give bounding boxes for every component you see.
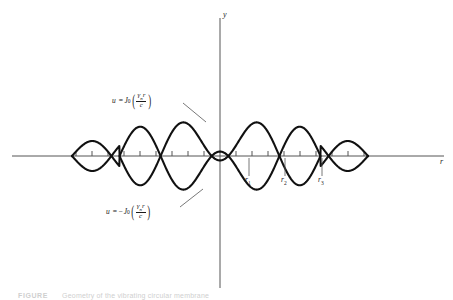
formula-negative-lhs: u: [106, 208, 110, 216]
formula-positive-subscript: 0: [128, 99, 131, 105]
formula-negative-sign: −: [118, 208, 122, 216]
figure-container: y r u = J 0 ( γnr c ) u = − J 0 ( γnr c …: [0, 0, 453, 300]
figure-caption: FIGUREGeometry of the vibrating circular…: [18, 292, 209, 299]
formula-positive-paren-close: ): [148, 93, 151, 108]
formula-negative-paren-close: ): [147, 204, 150, 219]
formula-positive-numerator: γnr: [136, 92, 146, 101]
formula-positive-paren-open: (: [132, 93, 135, 108]
node-label-r3: r3: [318, 175, 324, 186]
node-label-r1: r1: [245, 175, 251, 186]
axes-group: [12, 18, 444, 288]
formula-negative-denominator: c: [138, 212, 143, 219]
formula-positive-fraction: γnr c: [136, 92, 146, 109]
gamma-subscript: n: [139, 207, 142, 212]
gamma-subscript: n: [140, 96, 143, 101]
caption-tag: FIGURE: [18, 292, 48, 299]
formula-negative-paren-open: (: [131, 204, 134, 219]
formula-negative-numerator: γnr: [136, 203, 146, 212]
caption-text: Geometry of the vibrating circular membr…: [62, 292, 209, 299]
annotation-leader-lines: [180, 103, 206, 207]
node-label-subscript: 3: [321, 180, 324, 186]
numerator-tail: r: [143, 91, 146, 99]
numerator-tail: r: [142, 202, 145, 210]
formula-negative-fraction: γnr c: [136, 203, 146, 220]
formula-negative-subscript: 0: [127, 210, 130, 216]
formula-negative-equals: =: [113, 208, 117, 216]
formula-positive-denominator: c: [139, 101, 144, 108]
formula-positive-equals: =: [119, 97, 123, 105]
formula-negative-curve: u = − J 0 ( γnr c ): [106, 203, 151, 220]
x-axis-label: r: [440, 157, 443, 166]
formula-positive-lhs: u: [112, 97, 116, 105]
node-label-subscript: 2: [284, 180, 287, 186]
bessel-plot-svg: [0, 0, 453, 300]
node-label-subscript: 1: [248, 180, 251, 186]
node-label-r2: r2: [281, 175, 287, 186]
y-axis-label: y: [223, 10, 227, 19]
formula-positive-curve: u = J 0 ( γnr c ): [112, 92, 152, 109]
leader-negative: [180, 189, 203, 207]
leader-positive: [183, 103, 206, 122]
